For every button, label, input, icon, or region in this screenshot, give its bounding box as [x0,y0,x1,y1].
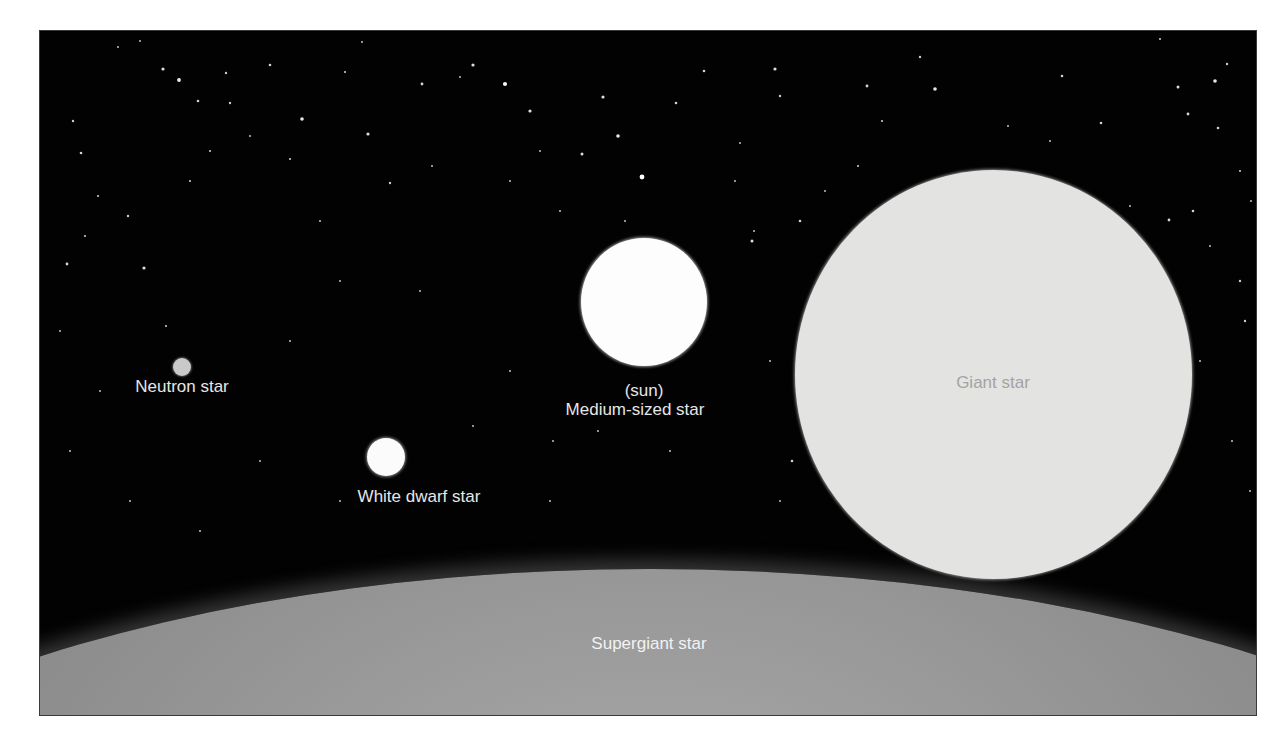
background-star-dot [779,95,781,97]
background-star-dot [1217,127,1220,130]
background-star-dot [1239,170,1241,172]
background-star-dot [472,425,474,427]
background-star-dot [431,165,433,167]
background-star-dot [269,64,272,67]
background-star-dot [597,430,599,432]
background-star-dot [229,102,231,104]
background-star-dot [127,215,129,217]
background-star-dot [289,340,291,342]
background-star-dot [199,530,201,532]
white-dwarf-star-label: White dwarf star [358,487,481,507]
background-star-dot [675,102,678,105]
background-star-dot [624,220,626,222]
background-star-dot [773,67,776,70]
background-star-dot [97,195,99,197]
background-star-dot [919,56,921,58]
background-star-dot [197,100,200,103]
background-star-dot [165,325,167,327]
background-star-dot [366,132,369,135]
background-star-dot [1159,38,1161,40]
background-star-dot [1213,79,1217,83]
background-star-dot [249,135,251,137]
background-star-dot [528,109,531,112]
background-star-dot [669,450,671,452]
background-star-dot [80,152,83,155]
background-star-dot [69,450,71,452]
background-star-dot [539,150,541,152]
background-star-dot [640,175,645,180]
background-star-dot [552,440,554,442]
background-star-dot [209,150,211,152]
background-star-dot [779,500,781,502]
background-star-dot [933,87,937,91]
white-dwarf-star-disc [367,438,405,476]
background-star-dot [1244,320,1246,322]
background-star-dot [289,158,291,160]
supergiant-star-label: Supergiant star [591,634,706,654]
sun-label: (sun) [625,381,664,401]
background-star-dot [361,41,363,43]
background-star-dot [421,83,424,86]
background-star-dot [739,142,741,144]
background-star-dot [339,280,341,282]
background-star-dot [1209,245,1211,247]
background-star-dot [84,235,86,237]
background-star-dot [769,360,771,362]
background-star-dot [1177,86,1180,89]
background-star-dot [1129,205,1131,207]
background-star-dot [1249,490,1251,492]
background-star-dot [703,70,706,73]
background-star-dot [1007,125,1009,127]
background-star-dot [129,500,131,502]
sun-medium-star-disc [581,238,707,366]
background-star-dot [1100,122,1103,125]
background-star-dot [549,500,551,502]
background-star-dot [139,40,141,42]
background-star-dot [471,63,474,66]
background-star-dot [142,266,145,269]
background-star-dot [616,134,620,138]
background-star-dot [799,220,802,223]
medium-sized-star-label: Medium-sized star [566,400,705,420]
background-star-dot [459,76,461,78]
background-star-dot [1061,75,1064,78]
background-star-dot [503,82,507,86]
background-star-dot [1199,360,1201,362]
background-star-dot [319,220,321,222]
background-star-dot [339,500,341,502]
background-star-dot [72,120,74,122]
background-star-dot [1226,63,1228,65]
background-star-dot [559,210,561,212]
background-star-dot [601,95,604,98]
background-star-dot [344,71,346,73]
background-star-dot [1168,219,1171,222]
background-star-dot [66,263,69,266]
background-star-dot [1239,280,1241,282]
background-star-dot [117,46,119,48]
background-star-dot [161,67,164,70]
background-star-dot [99,390,101,392]
background-star-dot [881,120,883,122]
background-star-dot [824,190,826,192]
giant-star-label: Giant star [956,373,1030,393]
background-star-dot [300,117,304,121]
background-star-dot [1187,113,1190,116]
background-star-dot [751,240,754,243]
star-size-illustration: Neutron star White dwarf star (sun) Medi… [39,30,1257,716]
background-star-dot [509,370,511,372]
background-star-dot [581,153,584,156]
background-star-dot [1192,210,1195,213]
background-star-dot [259,460,261,462]
neutron-star-label: Neutron star [135,377,229,397]
background-star-dot [1049,140,1051,142]
background-star-dot [1250,200,1252,202]
background-star-dot [389,182,391,184]
background-star-dot [734,180,736,182]
background-star-dot [791,460,794,463]
background-star-dot [509,180,511,182]
background-star-dot [59,330,61,332]
neutron-star-disc [173,358,191,376]
background-star-dot [753,230,755,232]
background-star-dot [177,78,181,82]
background-star-dot [857,165,859,167]
